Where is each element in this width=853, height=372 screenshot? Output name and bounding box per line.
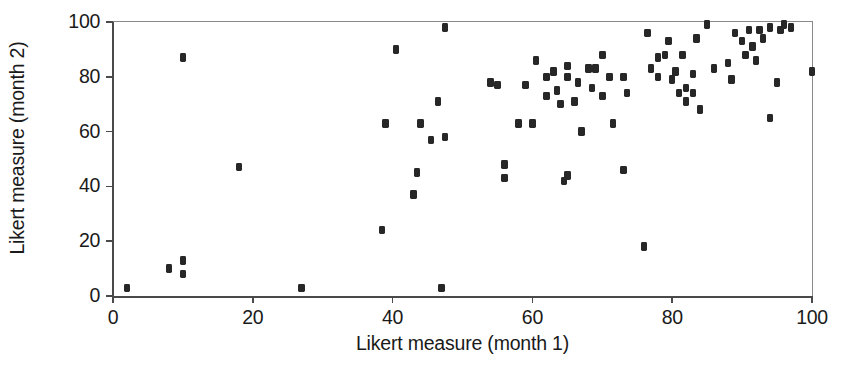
plot-right-spine bbox=[812, 22, 813, 297]
data-point bbox=[592, 64, 599, 73]
data-point bbox=[767, 23, 774, 32]
x-tick-20 bbox=[252, 296, 254, 303]
data-point bbox=[739, 37, 746, 46]
data-point bbox=[624, 89, 631, 98]
data-point bbox=[774, 78, 781, 87]
y-tick-40 bbox=[106, 186, 113, 188]
data-point bbox=[732, 29, 739, 38]
data-point bbox=[428, 136, 435, 145]
data-point bbox=[550, 67, 557, 76]
data-point bbox=[760, 34, 767, 43]
data-point bbox=[435, 97, 442, 106]
data-point bbox=[690, 89, 697, 98]
y-tick-label-40: 40 bbox=[40, 176, 100, 196]
data-point bbox=[788, 23, 795, 32]
data-point bbox=[749, 42, 756, 51]
data-point bbox=[585, 64, 592, 73]
y-tick-label-80: 80 bbox=[40, 67, 100, 87]
y-axis-title: Likert measure (month 2) bbox=[0, 0, 34, 296]
x-tick-label-0: 0 bbox=[78, 308, 148, 328]
y-tick-label-0: 0 bbox=[40, 286, 100, 306]
y-tick-80 bbox=[106, 76, 113, 78]
data-point bbox=[606, 73, 613, 82]
data-point bbox=[180, 256, 187, 265]
data-point bbox=[683, 84, 690, 93]
data-point bbox=[665, 37, 672, 46]
x-axis-line bbox=[113, 296, 813, 298]
data-point bbox=[669, 75, 676, 84]
data-point bbox=[599, 92, 606, 101]
data-point bbox=[683, 97, 690, 106]
data-point bbox=[648, 64, 655, 73]
data-point bbox=[679, 51, 686, 60]
data-point bbox=[589, 84, 596, 93]
y-tick-label-60: 60 bbox=[40, 122, 100, 142]
x-tick-label-60: 60 bbox=[497, 308, 567, 328]
data-point bbox=[610, 119, 617, 128]
x-axis-title: Likert measure (month 1) bbox=[113, 332, 812, 355]
x-tick-40 bbox=[392, 296, 394, 303]
data-point bbox=[564, 62, 571, 71]
data-point bbox=[543, 73, 550, 82]
data-point bbox=[767, 114, 774, 123]
y-tick-20 bbox=[106, 240, 113, 242]
y-tick-label-20: 20 bbox=[40, 231, 100, 251]
y-tick-100 bbox=[106, 21, 113, 23]
data-point bbox=[180, 53, 187, 62]
data-point bbox=[620, 166, 627, 175]
data-point bbox=[690, 70, 697, 79]
data-point bbox=[672, 67, 679, 76]
x-tick-label-20: 20 bbox=[218, 308, 288, 328]
y-tick-60 bbox=[106, 131, 113, 133]
data-point bbox=[417, 119, 424, 128]
data-point bbox=[641, 242, 648, 251]
data-point bbox=[756, 26, 763, 35]
data-point bbox=[414, 168, 421, 177]
data-point bbox=[571, 97, 578, 106]
x-tick-label-40: 40 bbox=[358, 308, 428, 328]
data-point bbox=[781, 20, 788, 29]
data-point bbox=[442, 133, 449, 142]
data-point bbox=[501, 160, 508, 169]
data-point bbox=[662, 51, 669, 60]
data-point bbox=[704, 20, 711, 29]
data-point bbox=[379, 226, 386, 235]
data-point bbox=[487, 78, 494, 87]
data-point bbox=[575, 78, 582, 87]
data-point bbox=[557, 100, 564, 109]
data-point bbox=[522, 81, 529, 90]
data-point bbox=[809, 67, 816, 76]
data-point bbox=[554, 86, 561, 95]
data-point bbox=[124, 284, 131, 293]
data-point bbox=[166, 264, 173, 273]
data-point bbox=[529, 119, 536, 128]
data-point bbox=[746, 26, 753, 35]
x-tick-0 bbox=[112, 296, 114, 303]
data-point bbox=[728, 75, 735, 84]
data-point bbox=[438, 284, 445, 293]
data-point bbox=[711, 64, 718, 73]
data-point bbox=[564, 171, 571, 180]
data-point bbox=[298, 284, 305, 293]
data-point bbox=[742, 51, 749, 60]
data-point bbox=[725, 59, 732, 68]
y-tick-label-100: 100 bbox=[40, 12, 100, 32]
data-point bbox=[655, 73, 662, 82]
plot-area: 020406080100 020406080100 bbox=[113, 22, 812, 296]
data-point bbox=[697, 105, 704, 114]
data-point bbox=[753, 56, 760, 65]
data-point bbox=[180, 270, 187, 279]
data-point bbox=[644, 29, 651, 38]
x-tick-80 bbox=[671, 296, 673, 303]
y-axis-line bbox=[112, 22, 114, 297]
data-point bbox=[236, 163, 243, 172]
data-point bbox=[515, 119, 522, 128]
data-point bbox=[693, 34, 700, 43]
data-point bbox=[578, 127, 585, 136]
data-point bbox=[676, 89, 683, 98]
x-tick-100 bbox=[811, 296, 813, 303]
data-point bbox=[655, 53, 662, 62]
data-point bbox=[410, 190, 417, 199]
x-tick-label-80: 80 bbox=[637, 308, 707, 328]
data-point bbox=[564, 73, 571, 82]
